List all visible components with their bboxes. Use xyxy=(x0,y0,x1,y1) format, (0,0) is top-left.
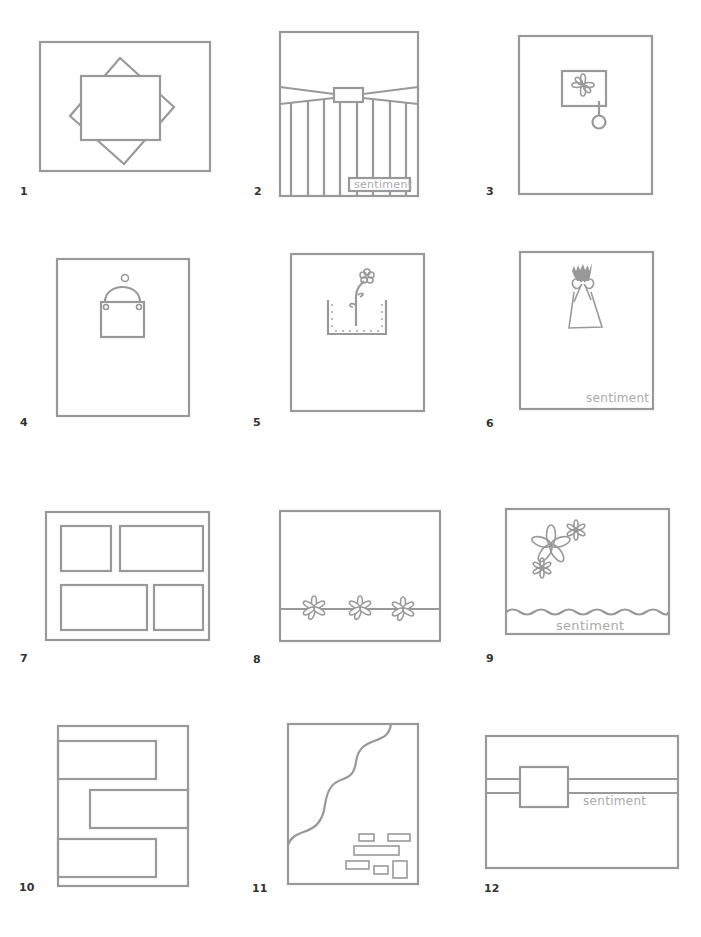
sentiment-label-2: sentiment xyxy=(354,178,412,191)
sketch-7 xyxy=(46,512,209,640)
sketch-number-12: 12 xyxy=(484,882,499,895)
sketch-11 xyxy=(288,724,418,884)
sketch-number-3: 3 xyxy=(486,185,494,198)
sketch-number-2: 2 xyxy=(254,185,262,198)
sketch-number-1: 1 xyxy=(20,185,28,198)
sketch-12 xyxy=(486,736,678,868)
sketch-3 xyxy=(519,36,652,194)
sketch-number-6: 6 xyxy=(486,417,494,430)
sketch-number-7: 7 xyxy=(20,652,28,665)
sketch-6 xyxy=(520,252,653,409)
sketch-number-9: 9 xyxy=(486,652,494,665)
sentiment-label-6: sentiment xyxy=(586,391,649,405)
sketch-number-4: 4 xyxy=(20,416,28,429)
sketch-8 xyxy=(280,511,440,641)
sentiment-label-9: sentiment xyxy=(556,618,624,633)
sketch-sheet: sentiment sentiment sentiment sentiment … xyxy=(0,0,701,937)
sketch-number-11: 11 xyxy=(252,882,267,895)
sketch-number-10: 10 xyxy=(19,881,34,894)
sketch-9 xyxy=(506,509,669,634)
sketch-2 xyxy=(280,32,418,196)
sketch-1 xyxy=(40,42,210,171)
sketch-4 xyxy=(57,259,189,416)
sketch-number-5: 5 xyxy=(253,416,261,429)
sketch-5 xyxy=(291,254,424,411)
sketch-10 xyxy=(58,726,188,886)
sketch-number-8: 8 xyxy=(253,653,261,666)
sentiment-label-12: sentiment xyxy=(583,794,646,808)
